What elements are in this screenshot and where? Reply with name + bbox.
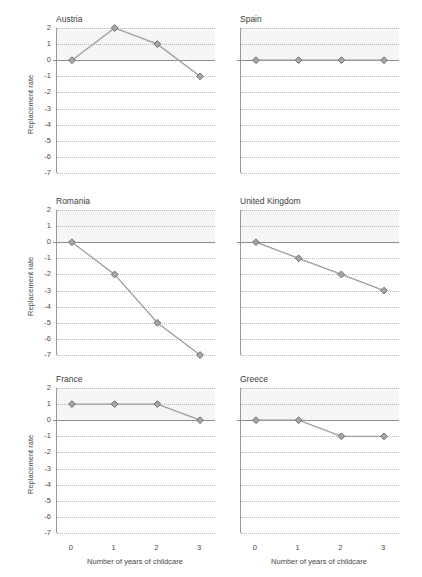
plot-area: [240, 388, 399, 533]
panel-title: France: [56, 374, 82, 384]
panel-title: Spain: [240, 14, 262, 24]
y-axis-tick-label: 2: [37, 23, 51, 32]
panel-title: Greece: [240, 374, 268, 384]
y-axis-tick-label: -2: [37, 447, 51, 456]
series-line: [72, 242, 200, 355]
y-axis-tick-label: 2: [37, 205, 51, 214]
y-axis-tick-label: -1: [37, 253, 51, 262]
y-axis-tick-label: 0: [37, 415, 51, 424]
series-line: [72, 28, 200, 76]
data-point-marker: [381, 287, 388, 294]
y-axis-tick-label: -1: [37, 431, 51, 440]
y-axis-tick-label: -5: [37, 136, 51, 145]
data-point-marker: [197, 417, 204, 424]
panel-title: United Kingdom: [240, 196, 300, 206]
data-point-marker: [253, 57, 260, 64]
y-axis-tick-label: -3: [37, 464, 51, 473]
plot-area: [240, 28, 399, 173]
data-point-marker: [381, 433, 388, 440]
gridline: [57, 533, 215, 534]
x-axis-tick-label: 2: [333, 543, 347, 552]
y-axis-tick-label: 0: [37, 237, 51, 246]
data-point-marker: [295, 57, 302, 64]
x-axis-tick-label: 2: [149, 543, 163, 552]
data-series: [241, 388, 399, 533]
gridline: [241, 355, 399, 356]
y-axis-tick-label: -7: [37, 350, 51, 359]
data-point-marker: [295, 255, 302, 262]
y-axis-tick-label: 2: [37, 383, 51, 392]
plot-area: [56, 210, 215, 355]
small-multiples-chart: Austria210-1-2-3-4-5-6-7Replacement rate…: [0, 0, 422, 577]
series-line: [72, 404, 200, 420]
data-point-marker: [338, 433, 345, 440]
y-axis-tick-label: -4: [37, 120, 51, 129]
plot-area: [56, 28, 215, 173]
y-axis-tick-label: -2: [37, 87, 51, 96]
panel-title: Austria: [56, 14, 82, 24]
gridline: [57, 173, 215, 174]
plot-area: [56, 388, 215, 533]
gridline: [57, 355, 215, 356]
x-axis-label: Number of years of childcare: [240, 557, 398, 566]
data-point-marker: [154, 401, 161, 408]
data-series: [57, 210, 215, 355]
data-point-marker: [338, 271, 345, 278]
series-line: [256, 242, 384, 290]
x-axis-tick-label: 1: [291, 543, 305, 552]
y-axis-label: Replacement rate: [26, 256, 35, 315]
data-point-marker: [295, 417, 302, 424]
data-series: [241, 210, 399, 355]
series-line: [256, 420, 384, 436]
gridline: [241, 173, 399, 174]
data-point-marker: [381, 57, 388, 64]
data-series: [241, 28, 399, 173]
y-axis-tick-label: -5: [37, 318, 51, 327]
plot-area: [240, 210, 399, 355]
y-axis-label: Replacement rate: [26, 434, 35, 493]
y-axis-tick-label: 1: [37, 39, 51, 48]
x-axis-tick-label: 0: [248, 543, 262, 552]
x-axis-tick-label: 0: [64, 543, 78, 552]
x-axis-tick-label: 3: [376, 543, 390, 552]
y-axis-tick-label: -7: [37, 528, 51, 537]
y-axis-tick-label: -5: [37, 496, 51, 505]
y-axis-tick-label: -2: [37, 269, 51, 278]
data-point-marker: [253, 239, 260, 246]
data-point-marker: [111, 401, 118, 408]
panel-title: Romania: [56, 196, 90, 206]
y-axis-tick-label: -4: [37, 480, 51, 489]
y-axis-label: Replacement rate: [26, 74, 35, 133]
y-axis-tick-label: -6: [37, 512, 51, 521]
y-axis-tick-label: -3: [37, 286, 51, 295]
x-axis-tick-label: 1: [107, 543, 121, 552]
y-axis-tick-label: -3: [37, 104, 51, 113]
y-axis-tick-label: -7: [37, 168, 51, 177]
x-axis-label: Number of years of childcare: [56, 557, 214, 566]
gridline: [241, 533, 399, 534]
x-axis-tick-label: 3: [192, 543, 206, 552]
y-axis-tick-label: -4: [37, 302, 51, 311]
data-series: [57, 28, 215, 173]
data-point-marker: [338, 57, 345, 64]
y-axis-tick-label: 0: [37, 55, 51, 64]
y-axis-tick-label: 1: [37, 399, 51, 408]
y-axis-tick-label: 1: [37, 221, 51, 230]
y-axis-tick-label: -6: [37, 152, 51, 161]
data-point-marker: [69, 401, 76, 408]
data-series: [57, 388, 215, 533]
y-axis-tick-label: -1: [37, 71, 51, 80]
data-point-marker: [253, 417, 260, 424]
y-axis-tick-label: -6: [37, 334, 51, 343]
